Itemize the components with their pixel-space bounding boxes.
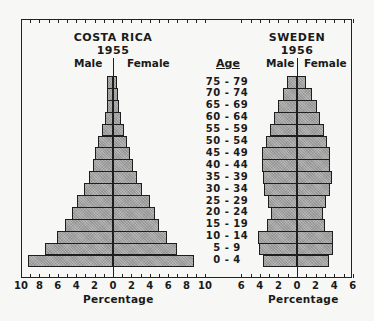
top-tick: [196, 19, 197, 23]
x-tick-label: 0: [289, 280, 305, 291]
x-tick: [58, 274, 59, 278]
x-tick-label: 6: [50, 280, 66, 291]
top-tick: [325, 19, 326, 23]
x-tick: [21, 274, 22, 278]
top-tick: [297, 19, 298, 23]
age-label: 30 - 34: [202, 183, 252, 194]
x-tick: [113, 274, 114, 278]
x-tick-label: 8: [179, 280, 195, 291]
age-label: 50 - 54: [202, 135, 252, 146]
x-tick: [67, 274, 68, 278]
age-label: 60 - 64: [202, 111, 252, 122]
top-tick: [278, 19, 279, 23]
age-label: 5 - 9: [202, 242, 252, 253]
top-tick: [95, 19, 96, 23]
x-tick-label: 6: [345, 280, 361, 291]
top-tick: [269, 19, 270, 23]
x-tick-label: 2: [87, 280, 103, 291]
top-tick: [113, 19, 114, 23]
sweden-country: SWEDEN: [247, 31, 347, 44]
age-label: 65 - 69: [202, 99, 252, 110]
x-tick: [85, 274, 86, 278]
x-tick: [269, 274, 270, 278]
x-tick: [344, 274, 345, 278]
age-label: 10 - 14: [202, 230, 252, 241]
costa-rica-year: 1955: [63, 44, 163, 57]
x-tick: [187, 274, 188, 278]
x-tick: [159, 274, 160, 278]
x-tick: [205, 274, 206, 278]
top-tick: [353, 19, 354, 23]
bar-male-0-4: [28, 255, 113, 268]
top-tick: [334, 19, 335, 23]
x-tick-label: 2: [270, 280, 286, 291]
top-tick: [122, 19, 123, 23]
x-tick: [316, 274, 317, 278]
x-tick-label: 0: [105, 280, 121, 291]
age-label: 0 - 4: [202, 254, 252, 265]
age-label: 15 - 19: [202, 218, 252, 229]
x-tick: [39, 274, 40, 278]
sweden-title: SWEDEN 1956: [247, 31, 347, 57]
age-label: 75 - 79: [202, 76, 252, 87]
top-tick: [21, 19, 22, 23]
top-tick: [76, 19, 77, 23]
bar-female-0-4: [113, 255, 194, 268]
x-tick: [196, 274, 197, 278]
x-tick-label: 4: [326, 280, 342, 291]
age-label: 20 - 24: [202, 206, 252, 217]
top-tick: [30, 19, 31, 23]
top-tick: [39, 19, 40, 23]
top-tick: [306, 19, 307, 23]
top-tick: [159, 19, 160, 23]
top-tick: [150, 19, 151, 23]
age-header: Age: [216, 57, 240, 70]
top-tick: [131, 19, 132, 23]
center-axis-line: [113, 58, 115, 278]
top-tick: [168, 19, 169, 23]
age-label: 55 - 59: [202, 123, 252, 134]
x-tick: [334, 274, 335, 278]
x-tick-label: 2: [123, 280, 139, 291]
age-label: 70 - 74: [202, 87, 252, 98]
x-tick: [131, 274, 132, 278]
x-tick: [76, 274, 77, 278]
x-tick-label: 2: [308, 280, 324, 291]
top-tick: [251, 19, 252, 23]
top-tick: [177, 19, 178, 23]
top-tick: [316, 19, 317, 23]
x-tick: [150, 274, 151, 278]
costa-rica-male-label: Male: [74, 57, 102, 69]
top-tick: [187, 19, 188, 23]
x-tick-label: 6: [233, 280, 249, 291]
top-tick: [104, 19, 105, 23]
costa-rica-country: COSTA RICA: [63, 31, 163, 44]
sweden-x-axis-label: Percentage: [268, 293, 339, 305]
top-tick: [241, 19, 242, 23]
age-label: 35 - 39: [202, 171, 252, 182]
top-tick: [288, 19, 289, 23]
bar-male-0-4: [263, 255, 297, 268]
x-tick: [141, 274, 142, 278]
x-tick-label: 4: [68, 280, 84, 291]
x-tick: [297, 274, 298, 278]
top-tick: [205, 19, 206, 23]
x-tick: [122, 274, 123, 278]
top-tick: [260, 19, 261, 23]
x-tick-label: 4: [142, 280, 158, 291]
sweden-year: 1956: [247, 44, 347, 57]
x-tick: [306, 274, 307, 278]
x-tick-label: 4: [252, 280, 268, 291]
age-label: 40 - 44: [202, 159, 252, 170]
top-tick: [67, 19, 68, 23]
x-tick: [168, 274, 169, 278]
x-tick: [353, 274, 354, 278]
costa-rica-female-label: Female: [127, 57, 170, 69]
x-tick: [288, 274, 289, 278]
x-tick-label: 10: [13, 280, 29, 291]
top-tick: [141, 19, 142, 23]
center-axis-line: [297, 58, 299, 278]
x-tick-label: 10: [197, 280, 213, 291]
sweden-male-label: Male: [266, 57, 294, 69]
costa-rica-title: COSTA RICA 1955: [63, 31, 163, 57]
